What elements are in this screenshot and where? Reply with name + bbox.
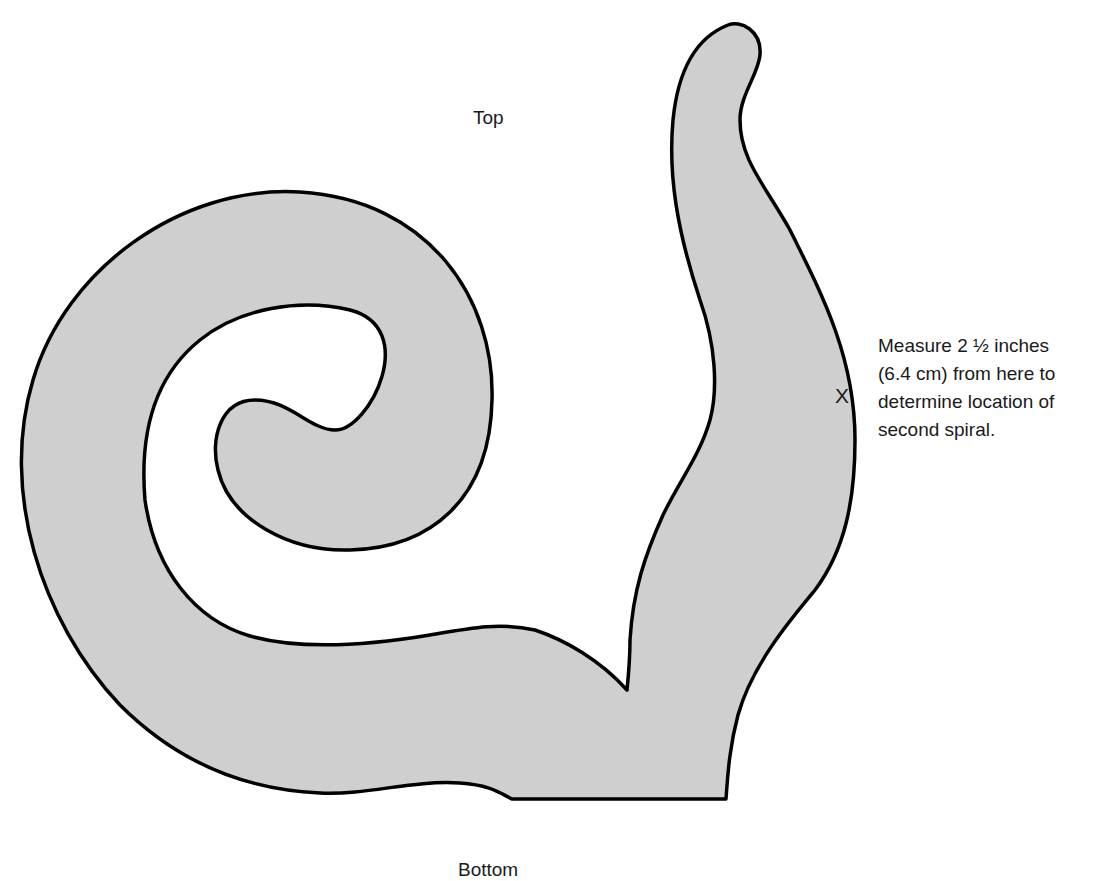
spiral-template-shape	[21, 24, 855, 799]
top-label: Top	[473, 106, 504, 130]
instruction-line: second spiral.	[878, 416, 1055, 444]
instruction-line: Measure 2 ½ inches	[878, 332, 1055, 360]
measurement-x-marker: X	[835, 384, 849, 408]
measurement-instruction: Measure 2 ½ inches (6.4 cm) from here to…	[878, 332, 1055, 444]
bottom-label: Bottom	[458, 858, 518, 881]
instruction-line: (6.4 cm) from here to	[878, 360, 1055, 388]
instruction-line: determine location of	[878, 388, 1055, 416]
